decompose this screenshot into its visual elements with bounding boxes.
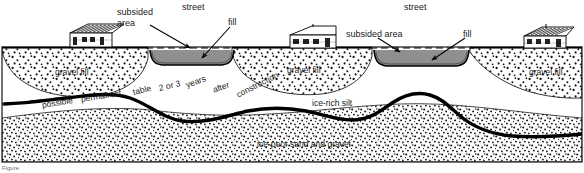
label-gravel-fill-2: gravel fill: [287, 66, 321, 75]
label-fill-left: fill: [228, 18, 237, 27]
label-fill-right: fill: [463, 30, 472, 39]
house-middle: [290, 24, 336, 48]
label-gravel-fill-3: gravel fill: [529, 68, 563, 77]
label-ice-poor-sand-and-gravel: ice-poor sand and gravel: [257, 140, 351, 149]
label-subsided-area-right: subsided area: [346, 30, 403, 39]
house-left: [70, 24, 124, 47]
label-subsided-area-left-line1: subsided: [117, 8, 153, 17]
subsided-pavement-right: [374, 50, 469, 66]
label-subsided-area-left-line2: area: [117, 19, 135, 28]
label-street-left: street: [182, 3, 205, 12]
figure-canvas: subsided area street fill street subside…: [0, 0, 584, 173]
figure-caption: Figure: [2, 165, 19, 171]
leader-subsided-left: [150, 25, 190, 48]
house-right: [524, 24, 574, 48]
label-street-right: street: [404, 3, 427, 12]
street-right: [370, 48, 474, 66]
label-gravel-fill-1: gravel fill: [55, 68, 89, 77]
street-left: [146, 48, 236, 65]
label-ice-rich-silt: ice-rich silt: [312, 99, 352, 108]
